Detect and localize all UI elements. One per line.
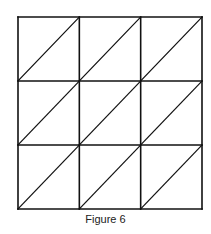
cell-diagonal-line — [79, 145, 140, 209]
triangle-grid-figure — [0, 0, 211, 234]
cell-diagonal-line — [18, 17, 79, 81]
cell-diagonal-line — [79, 81, 140, 145]
cell-diagonal-line — [18, 145, 79, 209]
cell-diagonal-line — [79, 17, 140, 81]
cell-diagonal-line — [18, 81, 79, 145]
cell-diagonal-line — [141, 17, 202, 81]
cell-diagonal-line — [141, 81, 202, 145]
figure-caption: Figure 6 — [0, 213, 211, 225]
cell-diagonal-line — [141, 145, 202, 209]
